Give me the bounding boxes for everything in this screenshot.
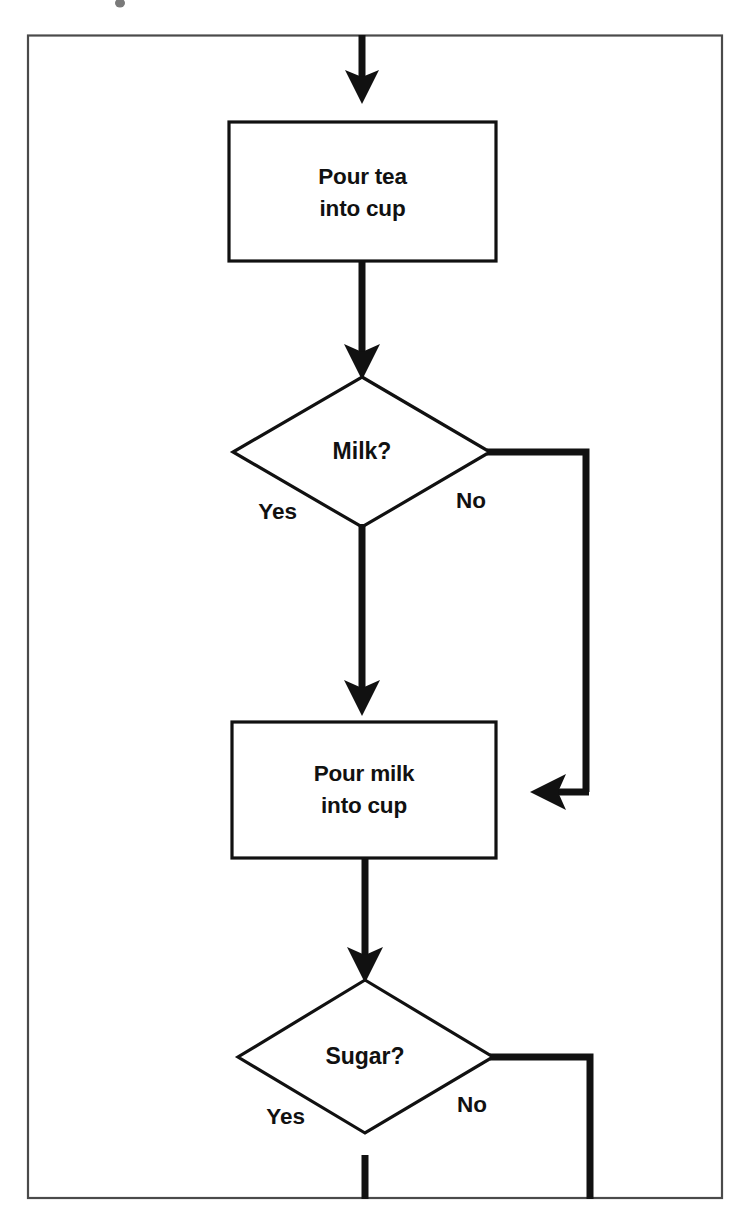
- edge-sugar-no: [490, 1057, 590, 1199]
- pour-milk-label-line2: into cup: [321, 793, 407, 818]
- edge-entry-to-pour-tea: [345, 35, 379, 104]
- sugar-yes-label: Yes: [266, 1104, 305, 1129]
- scan-speck: [115, 0, 125, 8]
- milk-decision-label: Milk?: [333, 438, 392, 464]
- milk-yes-label: Yes: [258, 499, 297, 524]
- sugar-no-label: No: [457, 1092, 487, 1117]
- pour-milk-label-line1: Pour milk: [314, 761, 415, 786]
- milk-no-label: No: [456, 488, 486, 513]
- flowchart-canvas: Pour tea into cup Milk? Yes No: [0, 0, 749, 1220]
- pour-tea-label-line2: into cup: [320, 196, 406, 221]
- pour-tea-label-line1: Pour tea: [318, 164, 407, 189]
- node-pour-tea[interactable]: Pour tea into cup: [229, 122, 496, 261]
- edge-milk-no: [487, 452, 589, 810]
- edge-milk-yes: [344, 524, 380, 716]
- sugar-decision-label: Sugar?: [325, 1043, 404, 1069]
- flowchart-svg: Pour tea into cup Milk? Yes No: [0, 0, 749, 1220]
- node-pour-milk[interactable]: Pour milk into cup: [232, 722, 496, 858]
- pour-milk-box[interactable]: [232, 722, 496, 858]
- pour-tea-box[interactable]: [229, 122, 496, 261]
- edge-tea-to-milk: [344, 261, 380, 380]
- edge-milk-to-sugar: [347, 858, 383, 983]
